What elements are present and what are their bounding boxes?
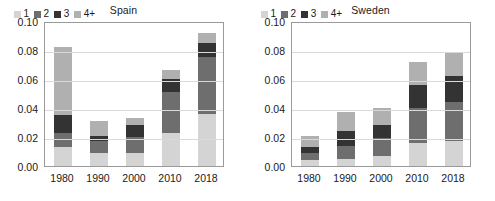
plot-area-spain (44, 22, 224, 167)
bar-segment-series-2 (198, 57, 217, 114)
figure-two-panel-stacked-bar: Spain 0.000.020.040.060.080.10 1234+ 198… (0, 0, 495, 201)
legend-swatch-icon (281, 11, 288, 18)
y-tick-label: 0.08 (265, 45, 285, 57)
y-tick-label: 0.02 (265, 132, 285, 144)
legend-label: 2 (291, 9, 297, 19)
legend-item-4plus: 4+ (74, 9, 95, 19)
bar-sweden-2000 (373, 21, 392, 166)
bar-spain-2010 (162, 21, 181, 166)
bar-sweden-1980 (301, 21, 320, 166)
bar-segment-series-3 (301, 147, 320, 153)
bar-segment-series-3 (54, 115, 73, 132)
plot-area-sweden (291, 22, 471, 167)
x-tick-label: 1990 (333, 172, 356, 184)
bar-segment-series-2 (301, 153, 320, 160)
bar-sweden-2010 (409, 21, 428, 166)
x-tick-label: 2000 (122, 172, 145, 184)
x-tick-label: 2010 (405, 172, 428, 184)
y-tick-label: 0.04 (265, 103, 285, 115)
x-axis-labels-spain: 19801990200020102018 (44, 170, 224, 190)
legend-label: 4+ (331, 9, 342, 19)
legend-swatch-icon (74, 11, 81, 18)
bar-segment-series-1 (445, 141, 464, 166)
bar-sweden-1990 (337, 21, 356, 166)
bar-segment-series-2 (445, 102, 464, 141)
legend-swatch-icon (321, 11, 328, 18)
bar-segment-series-4plus (337, 112, 356, 131)
legend-item-4plus: 4+ (321, 9, 342, 19)
gridline (45, 52, 223, 53)
legend-item-1: 1 (14, 9, 29, 19)
legend-label: 3 (64, 9, 70, 19)
x-axis-labels-sweden: 19801990200020102018 (291, 170, 471, 190)
bar-sweden-2018 (445, 21, 464, 166)
bar-segment-series-1 (126, 153, 145, 166)
chart-panel-sweden: Sweden 0.000.020.040.060.080.10 1234+ 19… (247, 0, 494, 201)
bar-segment-series-1 (373, 156, 392, 166)
bar-spain-1990 (90, 21, 109, 166)
bar-segment-series-1 (409, 143, 428, 166)
bar-segment-series-4plus (445, 53, 464, 76)
x-tick-label: 2018 (194, 172, 217, 184)
legend-label: 4+ (84, 9, 95, 19)
legend-swatch-icon (54, 11, 61, 18)
bar-segment-series-1 (54, 147, 73, 166)
bar-segment-series-3 (409, 85, 428, 108)
x-tick-label: 2010 (158, 172, 181, 184)
bar-spain-1980 (54, 21, 73, 166)
y-tick-label: 0.02 (18, 132, 38, 144)
bar-segment-series-1 (301, 160, 320, 166)
legend-item-1: 1 (261, 9, 276, 19)
gridline (45, 139, 223, 140)
gridline (45, 110, 223, 111)
bar-segment-series-4plus (301, 136, 320, 148)
bar-segment-series-1 (90, 153, 109, 166)
legend-spain: 1234+ (14, 9, 95, 19)
bar-segment-series-4plus (126, 118, 145, 125)
legend-item-3: 3 (301, 9, 316, 19)
legend-item-2: 2 (34, 9, 49, 19)
bar-segment-series-3 (373, 125, 392, 138)
legend-swatch-icon (34, 11, 41, 18)
gridline (292, 81, 470, 82)
y-tick-label: 0.06 (265, 74, 285, 86)
bar-segment-series-2 (162, 92, 181, 133)
legend-label: 3 (311, 9, 317, 19)
legend-swatch-icon (301, 11, 308, 18)
legend-label: 2 (44, 9, 50, 19)
bar-segment-series-4plus (198, 33, 217, 43)
bar-segment-series-2 (409, 108, 428, 143)
legend-item-2: 2 (281, 9, 296, 19)
bar-spain-2018 (198, 21, 217, 166)
gridline (292, 110, 470, 111)
y-tick-label: 0.04 (18, 103, 38, 115)
y-axis-labels-sweden: 0.000.020.040.060.080.10 (247, 22, 287, 167)
bar-segment-series-3 (126, 125, 145, 137)
gridline (45, 81, 223, 82)
legend-swatch-icon (14, 11, 21, 18)
bar-segment-series-1 (337, 159, 356, 166)
x-tick-label: 1980 (50, 172, 73, 184)
x-tick-label: 1980 (297, 172, 320, 184)
y-tick-label: 0.00 (18, 161, 38, 173)
x-tick-label: 2018 (441, 172, 464, 184)
bar-segment-series-2 (90, 141, 109, 153)
bar-segment-series-3 (198, 43, 217, 58)
bar-segment-series-1 (162, 133, 181, 166)
bars-group-spain (45, 23, 223, 166)
legend-swatch-icon (261, 11, 268, 18)
legend-label: 1 (271, 9, 277, 19)
bars-group-sweden (292, 23, 470, 166)
chart-panel-spain: Spain 0.000.020.040.060.080.10 1234+ 198… (0, 0, 247, 201)
x-tick-label: 1990 (86, 172, 109, 184)
bar-segment-series-4plus (90, 121, 109, 136)
gridline (292, 52, 470, 53)
bar-spain-2000 (126, 21, 145, 166)
gridline (292, 139, 470, 140)
bar-segment-series-4plus (162, 70, 181, 79)
y-axis-labels-spain: 0.000.020.040.060.080.10 (0, 22, 40, 167)
legend-item-3: 3 (54, 9, 69, 19)
y-tick-label: 0.06 (18, 74, 38, 86)
bar-segment-series-2 (337, 146, 356, 159)
y-tick-label: 0.00 (265, 161, 285, 173)
